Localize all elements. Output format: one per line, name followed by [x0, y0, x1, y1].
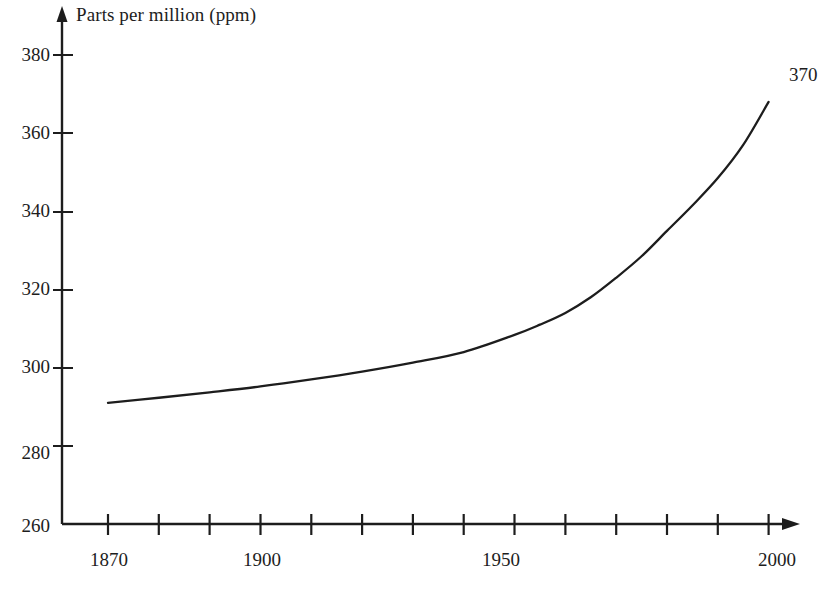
y-tick-label-360: 360 [4, 122, 50, 144]
y-tick-label-280: 280 [4, 442, 50, 464]
x-tick-label-2000: 2000 [742, 549, 812, 571]
y-tick-label-260: 260 [4, 515, 50, 537]
y-axis-arrow-icon [57, 6, 68, 22]
y-axis-title: Parts per million (ppm) [76, 4, 256, 26]
x-axis-arrow-icon [782, 518, 800, 530]
y-tick-label-320: 320 [4, 278, 50, 300]
x-tick-label-1950: 1950 [466, 549, 536, 571]
chart-container: Parts per million (ppm) 380 360 340 320 … [0, 0, 833, 599]
y-tick-label-380: 380 [4, 44, 50, 66]
y-tick-label-340: 340 [4, 200, 50, 222]
y-tick-label-300: 300 [4, 356, 50, 378]
chart-plot-area [0, 0, 833, 599]
co2-trend-line [108, 102, 769, 403]
x-tick-label-1870: 1870 [74, 549, 144, 571]
endpoint-value-label: 370 [789, 64, 818, 86]
x-tick-label-1900: 1900 [227, 549, 297, 571]
